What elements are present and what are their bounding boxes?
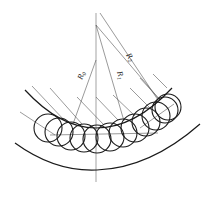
roller-tangent-line (50, 133, 158, 135)
label-r2: R2 (123, 51, 135, 64)
rollers (34, 94, 181, 153)
label-r0: R0 (76, 69, 88, 82)
radius-lines (73, 13, 160, 124)
roller-raceway-diagram: R0 R1 R2 (0, 0, 215, 199)
label-r1: R1 (114, 69, 125, 81)
roller (57, 122, 85, 150)
roller (83, 125, 111, 153)
outer-raceway-arc (15, 124, 200, 170)
roller (70, 124, 98, 152)
radius-line-r0 (73, 60, 96, 124)
roller (142, 102, 170, 130)
